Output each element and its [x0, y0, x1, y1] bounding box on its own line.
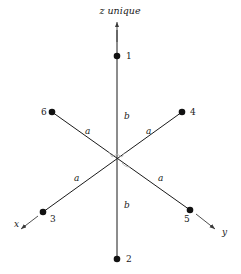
vertex-3 — [40, 209, 47, 216]
bond-label-a-upper-left: a — [85, 126, 90, 136]
bond-label-a-lower-right: a — [158, 173, 163, 183]
x-axis-label: x — [14, 219, 19, 229]
vertex-6 — [49, 109, 56, 116]
bond-label-a-lower-left: a — [74, 173, 79, 183]
vertex-label-4: 4 — [190, 107, 196, 117]
vertex-4 — [179, 109, 186, 116]
y-axis-arrow — [196, 214, 215, 229]
z-axis-caption: z unique — [98, 5, 140, 16]
vertex-label-1: 1 — [126, 51, 132, 61]
vertex-label-6: 6 — [41, 107, 47, 117]
bond-label-a-upper-right: a — [146, 126, 151, 136]
bond-6-5-line — [52, 112, 190, 210]
bond-label-b-lower: b — [124, 200, 130, 210]
vertex-1 — [114, 53, 121, 60]
x-axis-arrow — [21, 216, 38, 229]
vertex-label-5: 5 — [184, 214, 190, 224]
bond-label-b-upper: b — [124, 111, 130, 121]
bond-3-4-line — [43, 112, 182, 212]
y-axis-label: y — [221, 227, 228, 237]
vertex-label-3: 3 — [50, 214, 56, 224]
octahedral-coordinate-diagram: z unique 1 2 3 4 5 6 b b a a a a x y — [0, 0, 241, 274]
vertex-label-2: 2 — [126, 254, 132, 264]
vertex-2 — [114, 256, 121, 263]
vertex-5 — [187, 207, 194, 214]
diagram-canvas: z unique 1 2 3 4 5 6 b b a a a a x y — [0, 0, 241, 274]
